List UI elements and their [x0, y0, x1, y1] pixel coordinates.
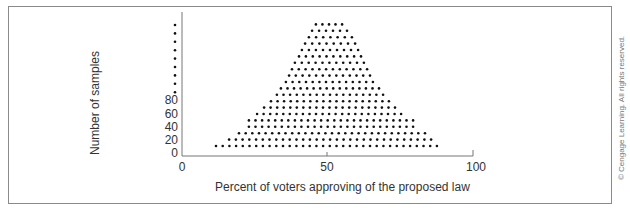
data-dot [256, 113, 259, 116]
data-dot [322, 145, 325, 148]
data-dot [353, 119, 356, 122]
data-dot [346, 30, 349, 33]
data-dot [302, 145, 305, 148]
data-dot [387, 106, 390, 109]
data-dot [315, 23, 318, 26]
data-dot [291, 81, 294, 84]
data-dot [288, 74, 291, 77]
data-dot [304, 68, 307, 71]
data-dot [402, 145, 405, 148]
y-tick-20: 20 [154, 134, 178, 146]
data-dot [338, 81, 341, 84]
data-dot [299, 87, 302, 90]
data-dot [331, 132, 334, 135]
data-dot [264, 132, 267, 135]
data-dot [322, 106, 325, 109]
data-dot [307, 119, 310, 122]
data-dot [364, 132, 367, 135]
data-dot [294, 62, 297, 65]
data-dot [254, 119, 257, 122]
data-dot [332, 42, 335, 45]
data-dot [267, 126, 270, 129]
data-dot [282, 145, 285, 148]
data-dot [342, 62, 345, 65]
data-dot [248, 119, 251, 122]
data-dot [270, 100, 273, 103]
data-dot [274, 119, 277, 122]
data-dot [336, 138, 339, 141]
data-dot [436, 145, 439, 148]
data-dot [302, 94, 305, 97]
data-dot [294, 126, 297, 129]
data-dot [332, 30, 335, 33]
data-dot [280, 87, 283, 90]
data-dot [372, 81, 375, 84]
axis-break-dot [174, 41, 177, 44]
data-dot [399, 126, 402, 129]
data-dot [300, 126, 303, 129]
axis-break-dot [174, 57, 177, 60]
data-dot [318, 30, 321, 33]
data-dot [329, 94, 332, 97]
data-dot [286, 87, 289, 90]
data-dot [331, 81, 334, 84]
data-dot [311, 68, 314, 71]
data-dot [268, 138, 271, 141]
data-dot [269, 106, 272, 109]
data-dot [321, 23, 324, 26]
data-dot [317, 132, 320, 135]
data-dot [354, 42, 357, 45]
y-tick-40: 40 [154, 121, 178, 133]
data-dot [325, 30, 328, 33]
data-dot [334, 113, 337, 116]
axis-break-dot [174, 32, 177, 35]
data-dot [348, 100, 351, 103]
data-dot [295, 138, 298, 141]
data-dot [289, 100, 292, 103]
data-dot [275, 145, 278, 148]
data-dot [235, 138, 238, 141]
data-dot [295, 113, 298, 116]
data-dot [320, 126, 323, 129]
data-dot [352, 87, 355, 90]
data-dot [340, 119, 343, 122]
data-dot [321, 113, 324, 116]
data-dot [301, 74, 304, 77]
data-dot [387, 113, 390, 116]
data-dot [302, 138, 305, 141]
data-dot [375, 145, 378, 148]
data-dot [371, 132, 374, 135]
data-dot [315, 94, 318, 97]
data-dot [328, 113, 331, 116]
data-dot [304, 42, 307, 45]
data-dot [351, 36, 354, 39]
data-dot [405, 119, 408, 122]
data-dot [276, 94, 279, 97]
data-dot [352, 68, 355, 71]
data-dot [315, 49, 318, 52]
data-dot [315, 106, 318, 109]
data-dot [311, 42, 314, 45]
data-dot [329, 100, 332, 103]
data-dot [362, 74, 365, 77]
data-dot [235, 145, 238, 148]
data-dot [311, 132, 314, 135]
data-dot [386, 126, 389, 129]
data-dot [322, 49, 325, 52]
data-dot [289, 94, 292, 97]
data-dot [262, 113, 265, 116]
data-dot [405, 126, 408, 129]
data-dot [404, 132, 407, 135]
data-dot [371, 87, 374, 90]
data-dot [332, 87, 335, 90]
data-dot [369, 145, 372, 148]
data-dot [429, 145, 432, 148]
data-dot [389, 138, 392, 141]
data-dot [346, 126, 349, 129]
data-dot [322, 100, 325, 103]
data-dot [422, 145, 425, 148]
data-dot [268, 145, 271, 148]
data-dot [328, 23, 331, 26]
data-dot [325, 68, 328, 71]
data-dot [384, 132, 387, 135]
